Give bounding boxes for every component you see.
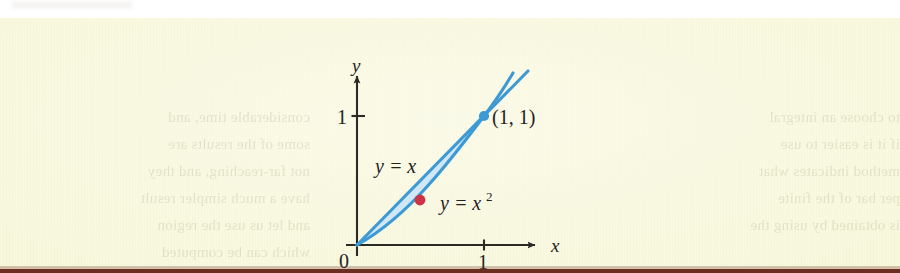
intersection-point-marker	[479, 111, 489, 121]
y-axis-label: y	[350, 55, 361, 76]
intersection-point-label: (1, 1)	[492, 106, 535, 129]
figure-region-between-curves: y x 0 1 1 (1, 1) y = x y = x 2	[318, 40, 580, 272]
y-tick-label-1: 1	[337, 106, 347, 128]
line-equation-label: y = x	[373, 155, 416, 178]
x-axis-label: x	[550, 235, 560, 256]
sample-point-marker	[415, 195, 426, 206]
bottom-red-rule	[0, 269, 900, 273]
top-white-margin	[0, 0, 900, 18]
parabola-equation-exponent: 2	[486, 189, 493, 204]
paper-background: considerable time, and some of the resul…	[0, 18, 900, 269]
ghost-text-left: considerable time, and some of the resul…	[10, 104, 310, 266]
scanned-textbook-page: considerable time, and some of the resul…	[0, 0, 900, 273]
scan-smudge	[12, 2, 132, 8]
ghost-text-right: to choose an integral if it is easier to…	[600, 104, 900, 239]
parabola-equation-label: y = x 2	[438, 189, 493, 215]
parabola-equation-base: y = x	[438, 192, 481, 215]
